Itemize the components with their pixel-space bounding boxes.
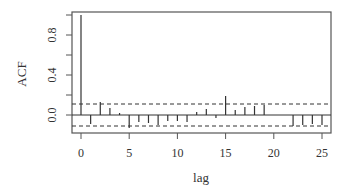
y-tick-label: 0.8 — [45, 28, 59, 43]
y-tick-label: 0.0 — [45, 108, 59, 123]
x-tick-label: 25 — [316, 146, 328, 160]
x-tick-label: 5 — [126, 146, 132, 160]
plot-area: 05101520250.00.40.8 — [45, 12, 331, 160]
x-tick-label: 20 — [268, 146, 280, 160]
x-axis-label: lag — [193, 170, 209, 185]
y-axis-label: ACF — [14, 61, 29, 86]
x-tick-label: 15 — [220, 146, 232, 160]
x-tick-label: 10 — [171, 146, 183, 160]
x-tick-label: 0 — [78, 146, 84, 160]
acf-chart: 05101520250.00.40.8 lag ACF — [0, 0, 347, 196]
y-tick-label: 0.4 — [45, 68, 59, 83]
